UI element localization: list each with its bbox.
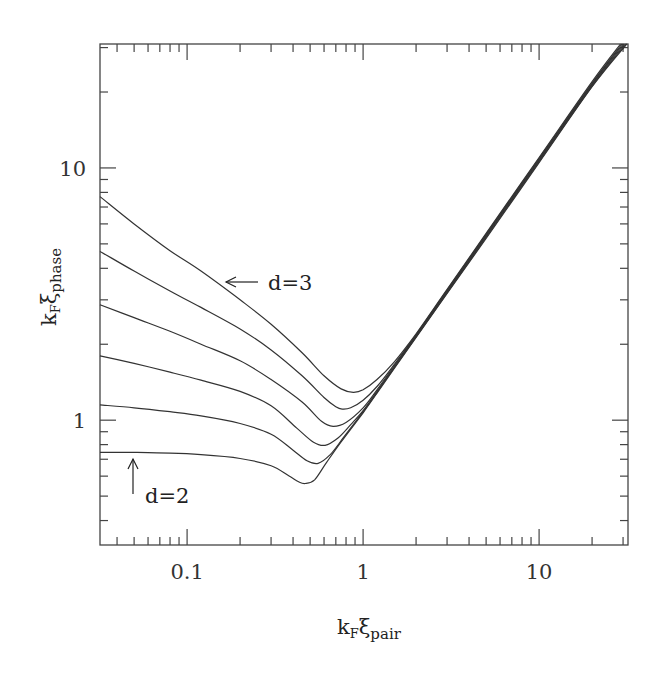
chart: 0.1110110 d=3 d=2 kFξpair kFξphase <box>0 0 656 681</box>
curve-d-2-4 <box>100 44 624 445</box>
curve-d-3 <box>100 44 621 392</box>
annotation-d3: d=3 <box>226 271 312 295</box>
x-tick-label: 0.1 <box>170 560 203 584</box>
y-axis-label: kFξphase <box>37 248 65 326</box>
y-tick-label: 1 <box>73 409 86 433</box>
tick-labels: 0.1110110 <box>59 157 552 584</box>
x-tick-label: 10 <box>526 560 553 584</box>
annotation-label-d2: d=2 <box>145 484 189 508</box>
x-tick-label: 1 <box>356 560 369 584</box>
plot-frame <box>100 44 628 545</box>
curve-d-2-8 <box>100 44 622 409</box>
curve-d-2-6 <box>100 44 623 426</box>
data-curves <box>100 44 627 484</box>
annotation-d2: d=2 <box>128 459 189 508</box>
annotation-label-d3: d=3 <box>268 271 312 295</box>
curve-d-2 <box>100 44 627 484</box>
x-axis-label: kFξpair <box>337 615 402 643</box>
y-tick-label: 10 <box>59 157 86 181</box>
axis-ticks <box>100 44 628 545</box>
